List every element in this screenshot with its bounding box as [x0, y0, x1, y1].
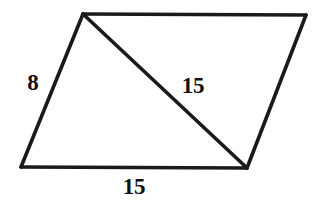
bottom-edge-line: [21, 167, 247, 168]
top-edge-line: [83, 14, 306, 15]
geometry-figure: 8 15 15: [0, 0, 322, 210]
right-edge-line: [247, 15, 306, 168]
parallelogram-diagram: [0, 0, 322, 210]
diagonal-length-label: 15: [182, 74, 205, 97]
left-side-length-label: 8: [27, 71, 38, 94]
bottom-side-length-label: 15: [123, 175, 146, 198]
diagonal-line: [83, 14, 247, 168]
